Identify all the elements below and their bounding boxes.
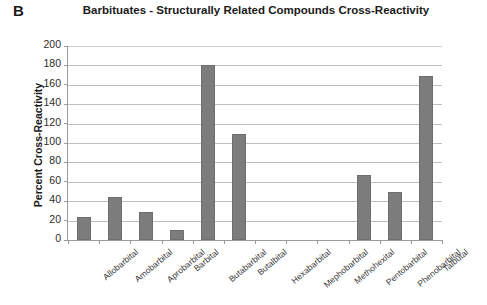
bar-amobarbital[interactable] — [108, 197, 122, 240]
bar-slot-butabarbital[interactable] — [193, 46, 224, 240]
bar-series — [68, 46, 442, 240]
x-tick-11 — [411, 240, 412, 244]
x-tick-2 — [130, 240, 131, 244]
bar-slot-phenobarbital[interactable] — [380, 46, 411, 240]
bar-butalbital[interactable] — [232, 134, 246, 240]
y-tick-label-120: 120 — [43, 116, 61, 128]
x-tick-0 — [68, 240, 69, 244]
bar-slot-mephobarbital[interactable] — [286, 46, 317, 240]
bar-slot-amobarbital[interactable] — [99, 46, 130, 240]
x-axis-ticks — [68, 240, 442, 244]
x-tick-5 — [224, 240, 225, 244]
x-tick-3 — [162, 240, 163, 244]
y-tick-label-0: 0 — [55, 232, 61, 244]
bar-slot-methohexital[interactable] — [317, 46, 348, 240]
bar-butabarbital[interactable] — [201, 65, 215, 240]
y-tick-label-80: 80 — [49, 154, 61, 166]
bar-slot-butalbital[interactable] — [224, 46, 255, 240]
bar-slot-allobarbital[interactable] — [68, 46, 99, 240]
bar-pentobarbital[interactable] — [357, 175, 371, 240]
bar-slot-hexabarbital[interactable] — [255, 46, 286, 240]
x-axis-labels: AllobarbitalAmobarbitalAprobarbitalBarbi… — [67, 245, 441, 305]
bar-aprobarbital[interactable] — [139, 212, 153, 240]
figure-panel-b: B Barbituates - Structurally Related Com… — [0, 0, 487, 305]
x-tick-8 — [317, 240, 318, 244]
y-tick-label-140: 140 — [43, 96, 61, 108]
y-tick-label-40: 40 — [49, 193, 61, 205]
x-tick-12 — [442, 240, 443, 244]
chart-title: Barbituates - Structurally Related Compo… — [46, 3, 466, 18]
y-axis-title: Percent Cross-Reactivity — [32, 45, 44, 245]
panel-letter: B — [13, 2, 24, 19]
y-tick-label-200: 200 — [43, 38, 61, 50]
x-tick-4 — [193, 240, 194, 244]
x-tick-9 — [349, 240, 350, 244]
y-tick-label-60: 60 — [49, 174, 61, 186]
bar-barbital[interactable] — [170, 230, 184, 240]
bar-slot-talbutal[interactable] — [411, 46, 442, 240]
x-tick-10 — [380, 240, 381, 244]
y-tick-label-160: 160 — [43, 77, 61, 89]
y-tick-label-20: 20 — [49, 213, 61, 225]
bar-slot-pentobarbital[interactable] — [349, 46, 380, 240]
bar-slot-aprobarbital[interactable] — [130, 46, 161, 240]
x-tick-1 — [99, 240, 100, 244]
bar-phenobarbital[interactable] — [388, 192, 402, 241]
bar-slot-barbital[interactable] — [162, 46, 193, 240]
x-tick-7 — [286, 240, 287, 244]
y-tick-label-100: 100 — [43, 135, 61, 147]
bar-allobarbital[interactable] — [77, 217, 91, 240]
plot-area: 200180160140120100806040200 — [67, 46, 442, 241]
y-tick-label-180: 180 — [43, 57, 61, 69]
x-tick-6 — [255, 240, 256, 244]
bar-talbutal[interactable] — [419, 76, 433, 240]
